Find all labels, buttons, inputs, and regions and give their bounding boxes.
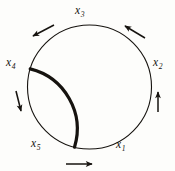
arrow-left (16, 91, 21, 111)
label-x4-sub: 4 (12, 62, 16, 71)
label-x4-base: x (6, 56, 11, 68)
label-x3-base: x (75, 4, 80, 16)
label-x3-sub: 3 (81, 10, 85, 19)
figure-canvas: x1 x2 x3 x4 x5 (0, 0, 175, 171)
main-circle (28, 25, 152, 149)
label-x5-base: x (31, 137, 36, 149)
arrow-upper-left (33, 25, 54, 36)
label-x5-sub: 5 (37, 143, 41, 152)
label-x2-base: x (153, 56, 158, 68)
label-x1-sub: 1 (122, 144, 126, 153)
circle-diagram-svg (0, 0, 175, 171)
label-x2-sub: 2 (159, 62, 163, 71)
arrow-upper-right (125, 26, 145, 38)
point-label-x1: x1 (116, 139, 125, 151)
label-x1-base: x (116, 138, 121, 150)
point-label-x4: x4 (6, 57, 15, 69)
bold-arc-segment (30, 69, 77, 147)
point-label-x3: x3 (75, 5, 84, 17)
point-label-x2: x2 (153, 57, 162, 69)
point-label-x5: x5 (31, 138, 40, 150)
